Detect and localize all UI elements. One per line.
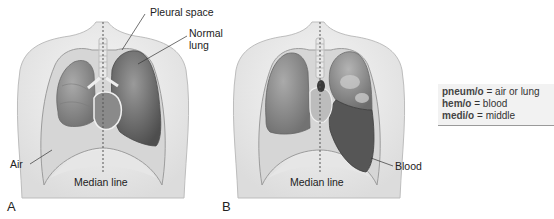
- legend-meaning: blood: [483, 98, 507, 109]
- legend-term: medi/o: [442, 110, 474, 121]
- legend-meaning: air or lung: [495, 86, 539, 97]
- word-parts-legend: pneum/o = air or lung hem/o = blood medi…: [438, 84, 554, 126]
- label-normal-lung-1: Normal: [189, 27, 223, 39]
- label-pleural-space: Pleural space: [150, 6, 214, 18]
- label-blood: Blood: [395, 160, 422, 172]
- label-median-line-b: Median line: [290, 176, 344, 188]
- legend-term: hem/o: [442, 98, 471, 109]
- panel-b-illustration: [233, 22, 404, 198]
- legend-meaning: middle: [486, 110, 515, 121]
- label-air: Air: [10, 158, 23, 170]
- label-normal-lung-2: lung: [189, 39, 209, 51]
- legend-sep: =: [471, 98, 482, 109]
- legend-row: pneum/o = air or lung: [442, 86, 550, 98]
- panel-a-illustration: [17, 14, 188, 198]
- heart-a: [94, 92, 121, 130]
- legend-sep: =: [484, 86, 495, 97]
- legend-term: pneum/o: [442, 86, 484, 97]
- panel-letter-b: B: [222, 199, 231, 214]
- heart-b: [310, 88, 332, 123]
- panel-letter-a: A: [7, 199, 16, 214]
- label-median-line-a: Median line: [74, 176, 128, 188]
- legend-row: medi/o = middle: [442, 110, 550, 122]
- legend-sep: =: [474, 110, 485, 121]
- legend-row: hem/o = blood: [442, 98, 550, 110]
